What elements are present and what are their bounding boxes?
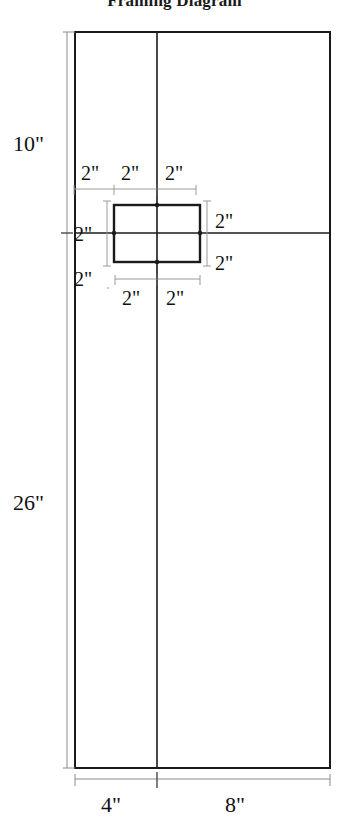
node-left [112, 231, 116, 235]
label-bottom-right: 2" [166, 287, 184, 309]
label-top-b: 2" [121, 162, 139, 184]
label-bottom-left: 2" [122, 287, 140, 309]
framing-diagram: Framing Diagram 10" 26" 4" 8" [0, 0, 349, 828]
label-height-top: 10" [13, 131, 44, 156]
label-width-right: 8" [225, 792, 245, 817]
label-width-left: 4" [101, 792, 121, 817]
label-top-a: 2" [81, 162, 99, 184]
label-right-lower: 2" [215, 252, 233, 274]
outer-rectangle [75, 32, 330, 768]
label-height-bottom: 26" [13, 490, 44, 515]
node-bottom [155, 260, 159, 264]
label-left-upper: 2" [74, 223, 92, 245]
node-top [155, 203, 159, 207]
diagram-canvas: 10" 26" 4" 8" 2" 2" 2" 2" 2" [0, 0, 349, 828]
label-left-lower: 2" [74, 268, 92, 290]
label-right-upper: 2" [215, 210, 233, 232]
stray-mark [107, 287, 109, 289]
label-top-c: 2" [165, 162, 183, 184]
node-right [198, 231, 202, 235]
